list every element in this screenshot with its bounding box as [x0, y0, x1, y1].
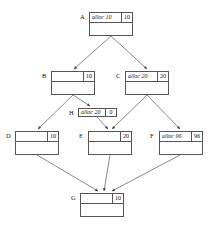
node-label: B — [42, 72, 46, 79]
node-box: 10 — [51, 71, 95, 95]
node-label: F — [150, 132, 154, 139]
node-value-cell: 20 — [120, 132, 131, 141]
node-statement: alloc 10 — [90, 13, 121, 22]
node-statement — [16, 132, 47, 141]
node-value-cell: 10 — [112, 194, 123, 203]
graph-edge-d-to-g — [37, 155, 98, 191]
node-label: D — [6, 132, 11, 139]
node-box: 10 — [80, 193, 124, 217]
graph-edge-a-to-c — [111, 36, 147, 69]
graph-node-d[interactable]: D10 — [15, 131, 59, 155]
node-box: alloc 9696 — [159, 131, 203, 155]
node-body — [89, 141, 131, 154]
node-label: C — [116, 72, 120, 79]
node-value-cell: 10 — [83, 72, 94, 81]
node-label: G — [71, 194, 76, 201]
node-body — [90, 22, 132, 35]
node-header: 10 — [81, 194, 123, 203]
node-header: 10 — [52, 72, 94, 81]
node-body — [126, 81, 168, 94]
node-body — [52, 81, 94, 94]
graph-edge-c-to-e — [112, 95, 147, 129]
node-value-cell: 20 — [157, 72, 168, 81]
allocation-dataflow-graph: Aalloc 1010B10Calloc 2020Halloc 200D10E2… — [0, 0, 218, 233]
node-body — [160, 141, 202, 154]
graph-edge-c-to-f — [147, 95, 180, 129]
node-value-cell: 0 — [105, 109, 116, 116]
node-value-cell: 10 — [47, 132, 58, 141]
node-header: alloc 1010 — [90, 13, 132, 22]
node-header: alloc 9696 — [160, 132, 202, 141]
graph-node-e[interactable]: E20 — [88, 131, 132, 155]
graph-node-f[interactable]: Falloc 9696 — [159, 131, 203, 155]
node-label: A — [80, 13, 85, 20]
node-box: 20 — [88, 131, 132, 155]
node-header: alloc 200 — [79, 109, 116, 116]
graph-edge-a-to-b — [74, 36, 111, 69]
node-value-cell: 10 — [121, 13, 132, 22]
node-statement: alloc 20 — [79, 109, 105, 116]
node-body — [16, 141, 58, 154]
graph-edge-b-to-d — [38, 95, 73, 129]
node-statement — [81, 194, 112, 203]
graph-node-c[interactable]: Calloc 2020 — [125, 71, 169, 95]
node-box: 10 — [15, 131, 59, 155]
node-statement — [89, 132, 120, 141]
graph-edge-b-to-h — [73, 95, 90, 106]
graph-node-g[interactable]: G10 — [80, 193, 124, 217]
node-header: 10 — [16, 132, 58, 141]
node-box: alloc 2020 — [125, 71, 169, 95]
node-header: 20 — [89, 132, 131, 141]
graph-node-a[interactable]: Aalloc 1010 — [89, 12, 133, 36]
node-body — [81, 203, 123, 216]
graph-edge-h-to-e — [97, 117, 108, 129]
node-statement: alloc 20 — [126, 72, 157, 81]
node-label: E — [79, 132, 83, 139]
node-statement — [52, 72, 83, 81]
node-value-cell: 96 — [191, 132, 202, 141]
graph-edge-f-to-g — [112, 155, 180, 191]
node-box: alloc 200 — [78, 108, 117, 117]
graph-edge-e-to-g — [104, 155, 110, 191]
graph-node-h[interactable]: Halloc 200 — [78, 108, 117, 117]
node-statement: alloc 96 — [160, 132, 191, 141]
node-label: H — [69, 109, 74, 116]
graph-node-b[interactable]: B10 — [51, 71, 95, 95]
node-box: alloc 1010 — [89, 12, 133, 36]
node-header: alloc 2020 — [126, 72, 168, 81]
